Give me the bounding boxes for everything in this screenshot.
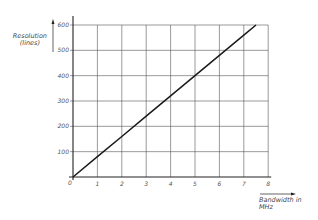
origin-label: 0 [68,179,72,186]
y-tick-label: 100 [58,148,70,155]
x-tick-label: 3 [144,180,148,187]
x-tick-label: 2 [120,180,124,187]
x-tick-label: 7 [242,180,246,187]
axes [52,16,297,196]
x-tick-label: 4 [169,180,173,187]
x-tick-label: 1 [95,180,99,187]
y-axis-title: Resolution (lines) [13,32,47,47]
y-tick-label: 400 [58,72,70,79]
y-tick-label: 300 [58,97,70,104]
tick-labels: 100200300400500600123456780 [58,21,271,187]
x-axis-title: Bandwidth in MHz [259,196,302,211]
y-tick-label: 600 [58,21,70,28]
x-tick-label: 5 [193,180,197,187]
x-tick-label: 8 [266,180,270,187]
x-axis-title-line-2: MHz [259,203,273,211]
resolution-bandwidth-chart: 100200300400500600123456780 Resolution (… [0,0,318,220]
y-tick-label: 200 [58,122,70,129]
y-tick-label: 500 [58,46,70,53]
arrow-up-icon [52,19,55,24]
x-tick-label: 6 [217,180,221,187]
y-axis-title-line-2: (lines) [20,39,40,47]
